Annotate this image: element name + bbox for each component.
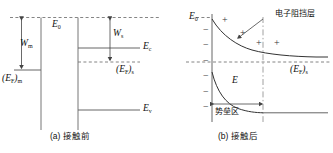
label-metal-fermi: (EF)m (2, 74, 22, 84)
label-conduction-band-a: Ec (143, 42, 151, 52)
label-vacuum-level-a: E0 (52, 20, 61, 30)
label-vacuum-level-b: E0 (189, 12, 198, 22)
label-field: E (232, 76, 238, 86)
label-metal-workfunction: Wm (20, 39, 33, 49)
caption-panel-a: (a) 接触前 (50, 132, 90, 141)
caption-panel-b: (b) 接触后 (218, 132, 258, 141)
negative-charge-2: − (203, 39, 209, 50)
positive-charge-3: + (256, 37, 262, 48)
label-semiconductor-fermi-b: (EF)s (290, 65, 308, 75)
label-valence-band-a: Ev (143, 104, 152, 114)
negative-charge-6: − (203, 101, 209, 112)
negative-charge-4: − (203, 70, 209, 81)
positive-charge-4: + (274, 37, 280, 48)
positive-charge-1: + (222, 14, 228, 25)
label-barrier-region: 势垒区 (215, 108, 239, 116)
negative-charge-1: − (203, 24, 209, 35)
negative-charge-5: − (203, 86, 209, 97)
label-semiconductor-fermi-a: (EF)s (116, 65, 134, 75)
label-semiconductor-workfunction: Ws (113, 29, 123, 39)
label-blocking-layer: 电子阻挡层 (275, 10, 315, 18)
positive-charge-2: + (240, 27, 246, 38)
band-diagram-figure: Wm (EF)m E0 Ws Ec (EF)s Ev (a) 接触前 E0 − … (0, 0, 333, 153)
negative-charge-3: − (203, 55, 209, 66)
